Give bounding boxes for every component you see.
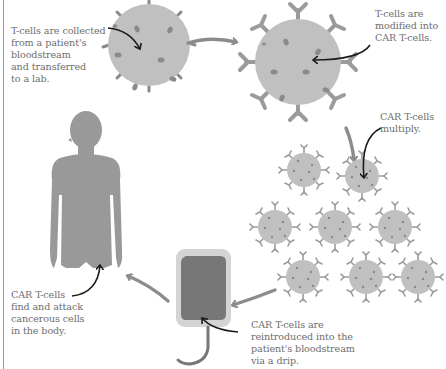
step-multiply-label: CAR T-cells multiply. [380, 111, 434, 135]
car-t-cell [240, 4, 356, 120]
t-cell [103, 0, 195, 91]
arrow-multiply-to-reintroduce [233, 290, 275, 305]
arrow-modify-to-multiply [346, 128, 354, 160]
step-attack-label: CAR T-cells find and attack cancerous ce… [11, 289, 84, 337]
human-silhouette [50, 111, 122, 268]
arrow-collect-to-modify [188, 39, 236, 43]
step-modify-label: T-cells are modified into CAR T-cells. [375, 8, 438, 44]
iv-drip-bag [176, 249, 231, 364]
car-t-cell-cluster [250, 145, 443, 302]
step-reintroduce-label: CAR T-cells are reintroduced into the pa… [251, 319, 355, 367]
step-collect-label: T-cells are collected from a patient's b… [11, 25, 106, 85]
arrow-reintroduce-to-attack [128, 276, 168, 301]
